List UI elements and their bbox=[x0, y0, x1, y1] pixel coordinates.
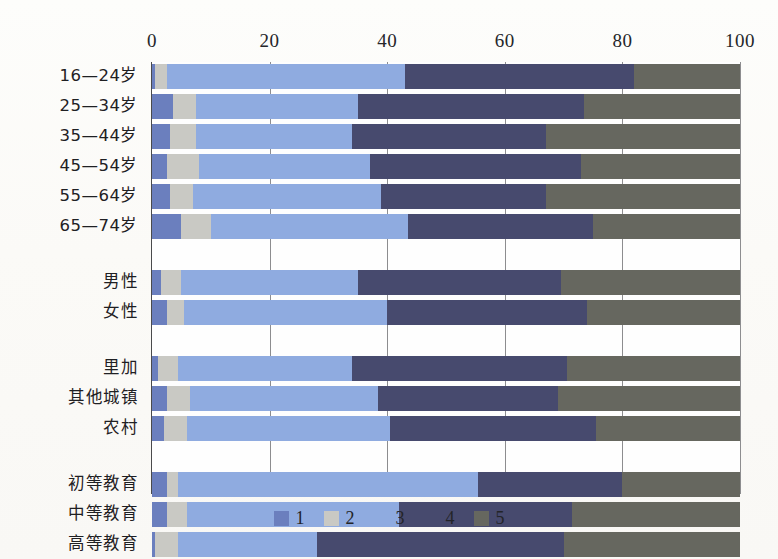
x-axis-tick-labels: 020406080100 bbox=[152, 30, 740, 56]
x-tick-label: 20 bbox=[260, 30, 280, 52]
bar-row[interactable] bbox=[152, 124, 740, 149]
x-tick-label: 60 bbox=[495, 30, 515, 52]
bar-row[interactable] bbox=[152, 270, 740, 295]
category-label: 其他城镇 bbox=[68, 390, 138, 407]
category-label: 里加 bbox=[103, 360, 138, 377]
bar-segment-series-1[interactable] bbox=[152, 184, 170, 209]
bar-segment-series-4[interactable] bbox=[390, 416, 596, 441]
bar-segment-series-2[interactable] bbox=[173, 94, 197, 119]
legend-item[interactable]: 1 bbox=[274, 508, 305, 529]
bar-segment-series-5[interactable] bbox=[546, 184, 740, 209]
bar-segment-series-3[interactable] bbox=[178, 472, 478, 497]
bar-segment-series-5[interactable] bbox=[622, 472, 740, 497]
bar-segment-series-5[interactable] bbox=[584, 94, 740, 119]
bar-segment-series-5[interactable] bbox=[561, 270, 740, 295]
bar-segment-series-5[interactable] bbox=[564, 532, 740, 557]
bar-row[interactable] bbox=[152, 532, 740, 557]
bar-segment-series-4[interactable] bbox=[478, 472, 622, 497]
bar-segment-series-3[interactable] bbox=[181, 270, 357, 295]
bar-segment-series-1[interactable] bbox=[152, 416, 164, 441]
bar-segment-series-4[interactable] bbox=[358, 270, 561, 295]
bar-row[interactable] bbox=[152, 472, 740, 497]
bar-row[interactable] bbox=[152, 416, 740, 441]
legend-swatch-icon bbox=[474, 511, 489, 526]
bar-segment-series-5[interactable] bbox=[567, 356, 740, 381]
category-label: 16—24岁 bbox=[60, 68, 139, 85]
bar-segment-series-3[interactable] bbox=[190, 386, 378, 411]
bar-segment-series-4[interactable] bbox=[408, 214, 593, 239]
bar-segment-series-3[interactable] bbox=[211, 214, 408, 239]
bar-segment-series-5[interactable] bbox=[593, 214, 740, 239]
bar-segment-series-3[interactable] bbox=[178, 356, 351, 381]
legend-swatch-icon bbox=[274, 511, 289, 526]
bar-segment-series-3[interactable] bbox=[167, 64, 405, 89]
bar-segment-series-3[interactable] bbox=[184, 300, 387, 325]
bar-segment-series-4[interactable] bbox=[378, 386, 557, 411]
bar-segment-series-2[interactable] bbox=[170, 124, 196, 149]
stacked-bar-chart: 020406080100 16—24岁25—34岁35—44岁45—54岁55—… bbox=[0, 0, 778, 559]
bar-segment-series-1[interactable] bbox=[152, 300, 167, 325]
category-labels: 16—24岁25—34岁35—44岁45—54岁55—64岁65—74岁男性女性… bbox=[0, 62, 146, 494]
bar-segment-series-2[interactable] bbox=[164, 416, 188, 441]
bar-segment-series-5[interactable] bbox=[634, 64, 740, 89]
bar-row[interactable] bbox=[152, 386, 740, 411]
plot-area bbox=[152, 62, 740, 494]
bar-segment-series-4[interactable] bbox=[352, 356, 567, 381]
category-label: 高等教育 bbox=[68, 536, 138, 553]
bar-segment-series-2[interactable] bbox=[167, 386, 191, 411]
bar-row[interactable] bbox=[152, 184, 740, 209]
bar-segment-series-2[interactable] bbox=[167, 300, 185, 325]
bar-segment-series-3[interactable] bbox=[178, 532, 316, 557]
category-label: 男性 bbox=[103, 274, 138, 291]
bar-segment-series-3[interactable] bbox=[199, 154, 370, 179]
bar-segment-series-4[interactable] bbox=[387, 300, 587, 325]
bar-row[interactable] bbox=[152, 94, 740, 119]
category-label: 65—74岁 bbox=[60, 218, 139, 235]
bar-segment-series-1[interactable] bbox=[152, 386, 167, 411]
bar-segment-series-1[interactable] bbox=[152, 472, 167, 497]
bar-segment-series-1[interactable] bbox=[152, 94, 173, 119]
bar-segment-series-1[interactable] bbox=[152, 214, 181, 239]
bar-segment-series-2[interactable] bbox=[161, 270, 182, 295]
bar-segment-series-5[interactable] bbox=[558, 386, 740, 411]
bar-segment-series-2[interactable] bbox=[167, 472, 179, 497]
legend-item[interactable]: 2 bbox=[324, 508, 355, 529]
category-label: 35—44岁 bbox=[60, 128, 139, 145]
bar-segment-series-4[interactable] bbox=[352, 124, 546, 149]
bar-row[interactable] bbox=[152, 214, 740, 239]
bar-segment-series-2[interactable] bbox=[170, 184, 194, 209]
bar-segment-series-5[interactable] bbox=[587, 300, 740, 325]
legend-item[interactable]: 3 bbox=[374, 508, 405, 529]
bar-row[interactable] bbox=[152, 64, 740, 89]
x-tick-label: 80 bbox=[612, 30, 632, 52]
bar-segment-series-3[interactable] bbox=[196, 94, 358, 119]
bar-row[interactable] bbox=[152, 356, 740, 381]
bar-segment-series-3[interactable] bbox=[196, 124, 352, 149]
legend-item[interactable]: 4 bbox=[424, 508, 455, 529]
bar-segment-series-1[interactable] bbox=[152, 270, 161, 295]
bar-segment-series-2[interactable] bbox=[155, 532, 179, 557]
bar-segment-series-2[interactable] bbox=[158, 356, 179, 381]
legend-item[interactable]: 5 bbox=[474, 508, 505, 529]
legend-label: 4 bbox=[446, 508, 455, 529]
bar-segment-series-5[interactable] bbox=[596, 416, 740, 441]
legend-swatch-icon bbox=[374, 511, 389, 526]
bar-segment-series-4[interactable] bbox=[317, 532, 564, 557]
bar-segment-series-1[interactable] bbox=[152, 124, 170, 149]
bar-segment-series-2[interactable] bbox=[167, 154, 199, 179]
bar-segment-series-2[interactable] bbox=[181, 214, 210, 239]
bar-rows bbox=[152, 62, 740, 494]
bar-segment-series-1[interactable] bbox=[152, 154, 167, 179]
bar-segment-series-4[interactable] bbox=[405, 64, 634, 89]
bar-segment-series-5[interactable] bbox=[546, 124, 740, 149]
chart-legend: 12345 bbox=[0, 508, 778, 529]
bar-row[interactable] bbox=[152, 154, 740, 179]
bar-segment-series-3[interactable] bbox=[193, 184, 381, 209]
bar-row[interactable] bbox=[152, 300, 740, 325]
bar-segment-series-3[interactable] bbox=[187, 416, 390, 441]
bar-segment-series-4[interactable] bbox=[370, 154, 582, 179]
bar-segment-series-4[interactable] bbox=[358, 94, 584, 119]
bar-segment-series-2[interactable] bbox=[155, 64, 167, 89]
bar-segment-series-5[interactable] bbox=[581, 154, 740, 179]
bar-segment-series-4[interactable] bbox=[381, 184, 546, 209]
